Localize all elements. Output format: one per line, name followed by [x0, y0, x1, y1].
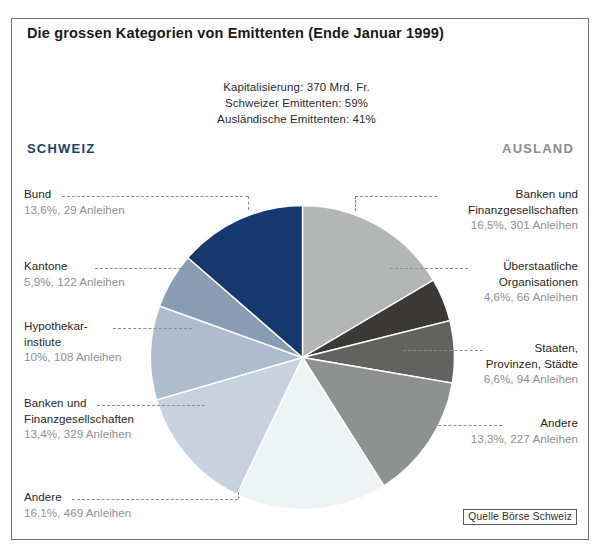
callout-label-line1: Banken und [468, 186, 578, 202]
callout-leader-drop [238, 492, 239, 499]
slice-callout: Bund13,6%, 29 Anleihen [24, 186, 125, 217]
callout-leader-line [408, 425, 502, 426]
callout-value: 6,6%, 94 Anleihen [484, 371, 578, 387]
callout-label-line1: Überstaatliche [484, 258, 578, 274]
slice-callout: ÜberstaatlicheOrganisationen4,6%, 66 Anl… [484, 258, 578, 305]
slice-callout: Staaten,Provinzen, Städte6,6%, 94 Anleih… [484, 340, 578, 387]
callout-leader-line [403, 350, 483, 351]
callout-label-line2: Provinzen, Städte [484, 356, 578, 372]
callout-leader-line [95, 268, 191, 269]
source-note: Quelle Börse Schweiz [463, 509, 577, 525]
callout-value: 16,5%, 301 Anleihen [468, 217, 578, 233]
callout-leader-line [113, 328, 192, 329]
callout-leader-line [355, 196, 437, 197]
callout-label-line2: Finanzgesellschaften [24, 411, 134, 427]
callout-value: 13,6%, 29 Anleihen [24, 202, 125, 218]
callout-leader-line [72, 499, 238, 500]
callout-value: 4,6%, 66 Anleihen [484, 289, 578, 305]
callout-leader-line [97, 405, 205, 406]
callout-value: 13,3%, 227 Anleihen [471, 431, 578, 447]
slice-callout: Hypothekar-instiute10%, 108 Anleihen [24, 318, 122, 365]
callout-label-line1: Kantone [24, 258, 125, 274]
chart-page: Die grossen Kategorien von Emittenten (E… [0, 0, 601, 551]
callout-leader-drop [248, 196, 249, 210]
callout-label-line2: Organisationen [484, 274, 578, 290]
callout-label-line1: Staaten, [484, 340, 578, 356]
callout-label-line1: Bund [24, 186, 125, 202]
callout-label-line2: instiute [24, 334, 122, 350]
callout-label-line2: Finanzgesellschaften [468, 202, 578, 218]
callout-label-line1: Andere [24, 489, 131, 505]
slice-callout: Andere16,1%, 469 Anleihen [24, 489, 131, 520]
callout-leader-line [62, 196, 248, 197]
callout-label-line1: Andere [471, 415, 578, 431]
slice-callout: Andere13,3%, 227 Anleihen [471, 415, 578, 446]
slice-callout: Kantone5,9%, 122 Anleihen [24, 258, 125, 289]
callout-label-line1: Hypothekar- [24, 318, 122, 334]
callout-label-line1: Banken und [24, 395, 134, 411]
callout-value: 16,1%, 469 Anleihen [24, 505, 131, 521]
slice-callout: Banken undFinanzgesellschaften13,4%, 329… [24, 395, 134, 442]
callout-value: 10%, 108 Anleihen [24, 349, 122, 365]
callout-leader-drop [355, 196, 356, 211]
callout-value: 5,9%, 122 Anleihen [24, 274, 125, 290]
callout-leader-line [390, 268, 468, 269]
slice-callout: Banken undFinanzgesellschaften16,5%, 301… [468, 186, 578, 233]
callout-value: 13,4%, 329 Anleihen [24, 426, 134, 442]
